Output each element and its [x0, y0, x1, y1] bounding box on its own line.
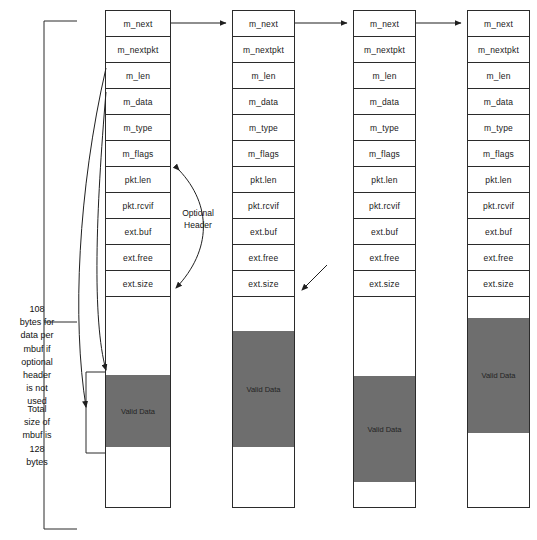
- field-m_next: m_next: [106, 11, 170, 37]
- mbuf-column-2: m_next m_nextpkt m_len m_data m_type m_f…: [232, 10, 295, 508]
- field-pkt_len: pkt.len: [233, 167, 294, 193]
- field-m_flags: m_flags: [354, 141, 415, 167]
- field-m_len: m_len: [354, 63, 415, 89]
- valid-data-region-1: Valid Data: [106, 375, 170, 447]
- field-pkt_len: pkt.len: [354, 167, 415, 193]
- field-m_len: m_len: [106, 63, 170, 89]
- field-ext_buf: ext.buf: [106, 219, 170, 245]
- mbuf-chain-diagram: 108 bytes for data per mbuf if optional …: [0, 0, 537, 540]
- field-ext_buf: ext.buf: [468, 219, 529, 245]
- field-pkt_len: pkt.len: [468, 167, 529, 193]
- field-pkt_rcvif: pkt.rcvif: [354, 193, 415, 219]
- annotation-bytes-per-mbuf: 108 bytes for data per mbuf if optional …: [4, 303, 70, 409]
- field-m_next: m_next: [233, 11, 294, 37]
- valid-data-region-2: Valid Data: [233, 331, 294, 447]
- mbuf-column-4: m_next m_nextpkt m_len m_data m_type m_f…: [467, 10, 530, 508]
- field-m_type: m_type: [106, 115, 170, 141]
- field-m_data: m_data: [468, 89, 529, 115]
- field-ext_size: ext.size: [354, 271, 415, 297]
- field-ext_free: ext.free: [233, 245, 294, 271]
- field-m_nextpkt: m_nextpkt: [106, 37, 170, 63]
- field-m_nextpkt: m_nextpkt: [233, 37, 294, 63]
- bracket-data-area-mbuf-1: [86, 372, 106, 453]
- mbuf-column-3: m_next m_nextpkt m_len m_data m_type m_f…: [353, 10, 416, 508]
- field-ext_buf: ext.buf: [233, 219, 294, 245]
- field-m_next: m_next: [468, 11, 529, 37]
- field-m_type: m_type: [468, 115, 529, 141]
- field-m_data: m_data: [354, 89, 415, 115]
- field-m_nextpkt: m_nextpkt: [468, 37, 529, 63]
- field-m_len: m_len: [233, 63, 294, 89]
- field-ext_free: ext.free: [106, 245, 170, 271]
- mbuf-column-1: m_next m_nextpkt m_len m_data m_type m_f…: [105, 10, 171, 508]
- field-pkt_rcvif: pkt.rcvif: [233, 193, 294, 219]
- field-ext_size: ext.size: [233, 271, 294, 297]
- field-pkt_rcvif: pkt.rcvif: [106, 193, 170, 219]
- field-m_flags: m_flags: [233, 141, 294, 167]
- field-ext_size: ext.size: [106, 271, 170, 297]
- field-pkt_len: pkt.len: [106, 167, 170, 193]
- optional-header-label: Optional Header: [176, 207, 220, 231]
- field-m_flags: m_flags: [468, 141, 529, 167]
- field-m_type: m_type: [233, 115, 294, 141]
- optional-header-pointer-col2: [302, 265, 327, 290]
- field-ext_buf: ext.buf: [354, 219, 415, 245]
- valid-data-region-4: Valid Data: [468, 318, 529, 433]
- field-ext_size: ext.size: [468, 271, 529, 297]
- field-m_flags: m_flags: [106, 141, 170, 167]
- field-ext_free: ext.free: [468, 245, 529, 271]
- field-m_data: m_data: [233, 89, 294, 115]
- annotation-total-size: Total size of mbuf is 128 bytes: [4, 403, 70, 469]
- field-m_data: m_data: [106, 89, 170, 115]
- field-m_len: m_len: [468, 63, 529, 89]
- field-ext_free: ext.free: [354, 245, 415, 271]
- m_data-pointer-curve-a: [79, 68, 106, 407]
- field-m_next: m_next: [354, 11, 415, 37]
- field-m_type: m_type: [354, 115, 415, 141]
- valid-data-region-3: Valid Data: [354, 376, 415, 482]
- field-pkt_rcvif: pkt.rcvif: [468, 193, 529, 219]
- field-m_nextpkt: m_nextpkt: [354, 37, 415, 63]
